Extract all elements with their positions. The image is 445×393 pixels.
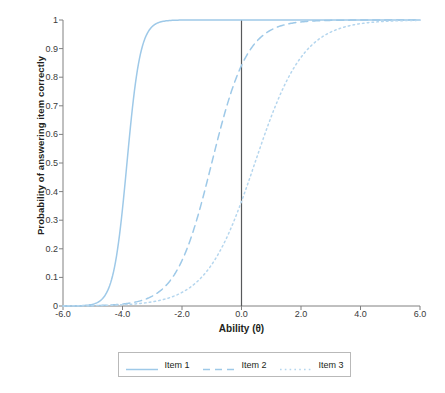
legend-label: Item 2 [241,360,266,370]
x-axis-tick-label-wrap: -6.0 [43,309,83,321]
x-axis-tick-label-wrap: -4.0 [103,309,143,321]
legend-entry-item-3[interactable]: Item 3 [279,360,343,370]
legend-entry-item-1[interactable]: Item 1 [125,360,189,370]
x-axis-tick-label: 2.0 [281,309,321,319]
chart-legend: Item 1Item 2Item 3 [118,352,351,377]
legend-swatch-dotted-icon [279,360,313,369]
x-axis-tick-label: 4.0 [341,309,381,319]
item-characteristic-curve-chart: Probability of answering item correctly … [0,0,445,393]
x-axis-tick-label-wrap: 6.0 [400,309,440,321]
x-axis-tick-label-wrap: 2.0 [281,309,321,321]
x-axis-tick-label: -4.0 [103,309,143,319]
x-axis-tick-label: -6.0 [43,309,83,319]
legend-label: Item 1 [164,360,189,370]
x-axis-tick-label-wrap: 0.0 [222,309,262,321]
x-axis-tick-label-wrap: 4.0 [341,309,381,321]
legend-entry-item-2[interactable]: Item 2 [202,360,266,370]
x-axis-tick-label-wrap: -2.0 [162,309,202,321]
x-axis-tick-label: 6.0 [400,309,440,319]
x-axis-tick-label: 0.0 [222,309,262,319]
legend-label: Item 3 [318,360,343,370]
x-axis-title: Ability (θ) [63,323,420,334]
x-axis-tick-label: -2.0 [162,309,202,319]
legend-swatch-solid-icon [125,360,159,369]
legend-swatch-dashed-icon [202,360,236,369]
plot-area [0,0,445,393]
